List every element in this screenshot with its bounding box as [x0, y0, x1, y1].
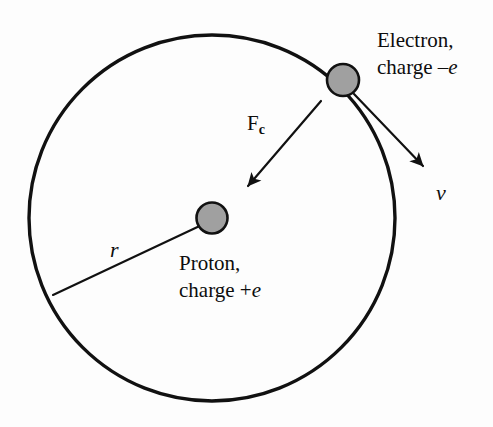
velocity-arrow [354, 94, 423, 166]
velocity-label: v [436, 179, 446, 207]
electron-particle [327, 64, 359, 96]
electron-label-line2: charge –e [377, 54, 458, 81]
proton-charge-prefix: charge + [179, 278, 252, 302]
centripetal-force-label: Fc [247, 110, 265, 139]
electron-label: Electron, charge –e [377, 27, 458, 81]
force-symbol: F [247, 111, 259, 135]
proton-label-line1: Proton, [179, 250, 261, 277]
radius-label: r [110, 236, 119, 264]
proton-charge-symbol: e [252, 278, 261, 302]
electron-label-line1: Electron, [377, 27, 458, 54]
proton-label-line2: charge +e [179, 277, 261, 304]
electron-charge-symbol: e [448, 55, 457, 79]
proton-particle [197, 203, 228, 234]
electron-charge-prefix: charge – [377, 55, 448, 79]
proton-label: Proton, charge +e [179, 250, 261, 304]
bohr-atom-diagram: Electron, charge –e Proton, charge +e Fc… [0, 0, 493, 427]
force-subscript: c [259, 122, 265, 137]
